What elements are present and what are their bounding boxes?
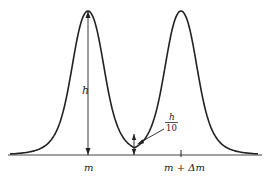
valley-arrowhead-bottom: [132, 149, 136, 155]
valley-arrowhead-top: [132, 134, 136, 140]
mass-left-label: m: [84, 162, 93, 173]
mass-right-label: m + Δm: [164, 162, 205, 173]
valley-fraction-numerator: h: [169, 112, 175, 122]
peak-height-label: h: [82, 84, 89, 97]
double-peak-curve: [10, 11, 258, 154]
peak-height-arrowhead-bottom: [86, 148, 91, 155]
resolution-diagram: h h 10 m m + Δm: [0, 0, 268, 179]
valley-fraction-denominator: 10: [166, 123, 177, 133]
